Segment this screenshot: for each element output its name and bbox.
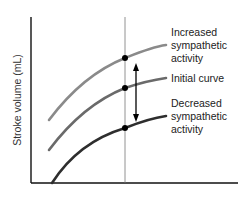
double-arrow-icon (133, 63, 139, 122)
svg-text:activity: activity (171, 52, 204, 64)
svg-text:Decreased: Decreased (171, 97, 222, 109)
label-decreased-sympathetic: Decreased sympathetic activity (171, 97, 227, 135)
svg-text:Initial curve: Initial curve (171, 72, 224, 84)
label-initial-curve: Initial curve (171, 72, 224, 84)
dot-decreased (122, 125, 128, 131)
y-axis-label: Stroke volume (mL) (11, 54, 23, 146)
stroke-volume-diagram: Stroke volume (mL) Increased sympathetic… (0, 0, 250, 199)
label-increased-sympathetic: Increased sympathetic activity (171, 26, 227, 64)
svg-text:activity: activity (171, 123, 204, 135)
curve-initial (49, 78, 166, 150)
svg-text:sympathetic: sympathetic (171, 110, 227, 122)
dot-increased (122, 55, 128, 61)
svg-text:sympathetic: sympathetic (171, 39, 227, 51)
svg-text:Increased: Increased (171, 26, 217, 38)
dot-initial (122, 85, 128, 91)
